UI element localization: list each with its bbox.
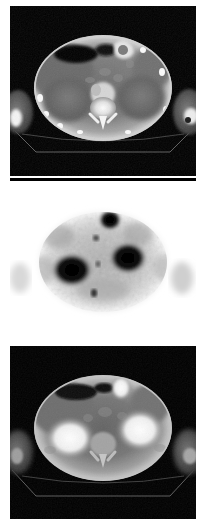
ct-image: [10, 6, 196, 176]
fused-image: [10, 346, 196, 519]
uptake-focus-right-renal: [50, 252, 94, 288]
pet-ct-figure: [0, 0, 206, 525]
fused-pet-ct-panel: [10, 346, 196, 519]
uptake-focus-left-renal: [108, 241, 148, 275]
pet-panel: [10, 178, 196, 344]
pet-image: [10, 178, 196, 344]
arm-right-faint: [171, 262, 193, 294]
ct-panel: [10, 6, 196, 176]
pet-top-strip: [10, 178, 196, 181]
uptake-focus-small-midline: [91, 289, 97, 297]
arm-left-faint: [10, 263, 30, 293]
